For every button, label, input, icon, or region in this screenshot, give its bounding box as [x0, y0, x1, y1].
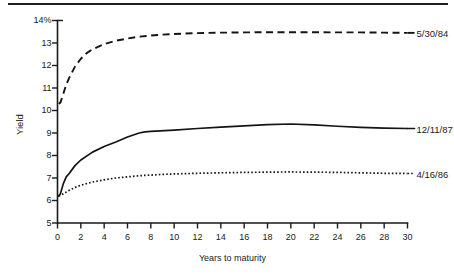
series-line-4-16-86 [59, 172, 408, 196]
x-axis-tick-label: 28 [372, 233, 396, 242]
y-axis-tick-label: 5 [12, 219, 52, 228]
series-label-12-11-87: 12/11/87 [417, 124, 453, 135]
series-line-12-11-87 [59, 124, 408, 196]
series-label-5-30-84: 5/30/84 [417, 28, 449, 39]
x-axis-tick-label: 2 [69, 233, 93, 242]
x-axis-tick-label: 24 [326, 233, 350, 242]
x-axis-tick-label: 16 [232, 233, 256, 242]
x-axis-tick-label: 8 [139, 233, 163, 242]
y-axis-tick-label: 14% [12, 16, 52, 25]
x-axis-tick-label: 6 [116, 233, 140, 242]
y-axis-tick-label: 6 [12, 196, 52, 205]
chart-series [59, 32, 415, 196]
x-axis-tick-label: 26 [349, 233, 373, 242]
x-axis-tick-label: 22 [302, 233, 326, 242]
y-axis-tick-label: 12 [12, 61, 52, 70]
x-axis-tick-label: 12 [186, 233, 210, 242]
y-axis-tick-label: 11 [12, 84, 52, 93]
y-axis-tick-label: 7 [12, 174, 52, 183]
x-axis-tick-label: 10 [162, 233, 186, 242]
x-axis-title: Years to maturity [38, 253, 428, 263]
series-line-5-30-84 [59, 32, 408, 104]
axis-spine [58, 21, 408, 224]
x-axis-tick-label: 30 [396, 233, 420, 242]
series-label-4-16-86: 4/16/86 [417, 169, 449, 180]
x-axis-tick-label: 18 [256, 233, 280, 242]
y-axis-tick-label: 13 [12, 39, 52, 48]
y-axis-title: Yield [14, 114, 25, 135]
x-axis-tick-label: 14 [209, 233, 233, 242]
chart-figure: 567891011121314% 02468101214161820222426… [0, 0, 454, 280]
x-axis-tick-label: 4 [92, 233, 116, 242]
chart-axes [52, 21, 408, 229]
y-axis-tick-label: 8 [12, 151, 52, 160]
x-axis-tick-label: 20 [279, 233, 303, 242]
x-axis-tick-label: 0 [46, 233, 70, 242]
